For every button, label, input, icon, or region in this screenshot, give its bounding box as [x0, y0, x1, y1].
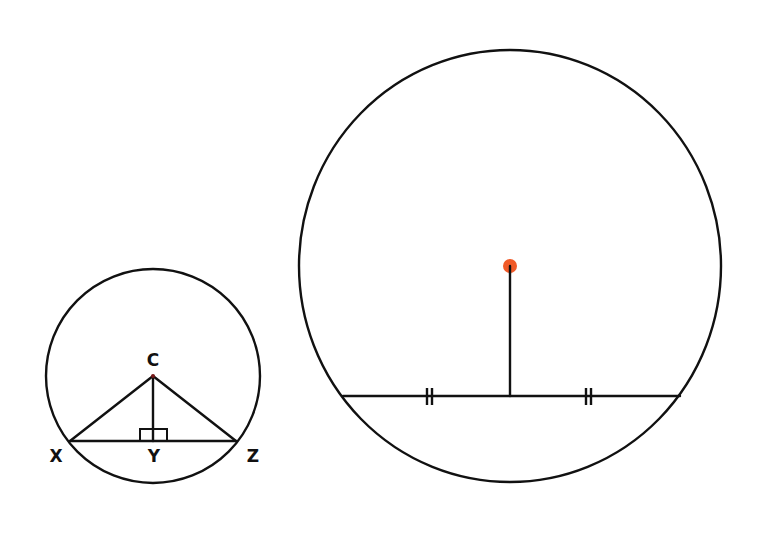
- label-x: X: [49, 446, 62, 466]
- small-circle-figure: C X Y Z: [46, 269, 260, 483]
- label-c: C: [147, 350, 159, 370]
- large-circle-figure: [299, 50, 721, 482]
- circle-chord-diagram: C X Y Z: [0, 0, 767, 536]
- center-point-c: [151, 374, 155, 378]
- radius-cz: [153, 376, 236, 441]
- label-y: Y: [147, 446, 161, 466]
- label-z: Z: [247, 446, 259, 466]
